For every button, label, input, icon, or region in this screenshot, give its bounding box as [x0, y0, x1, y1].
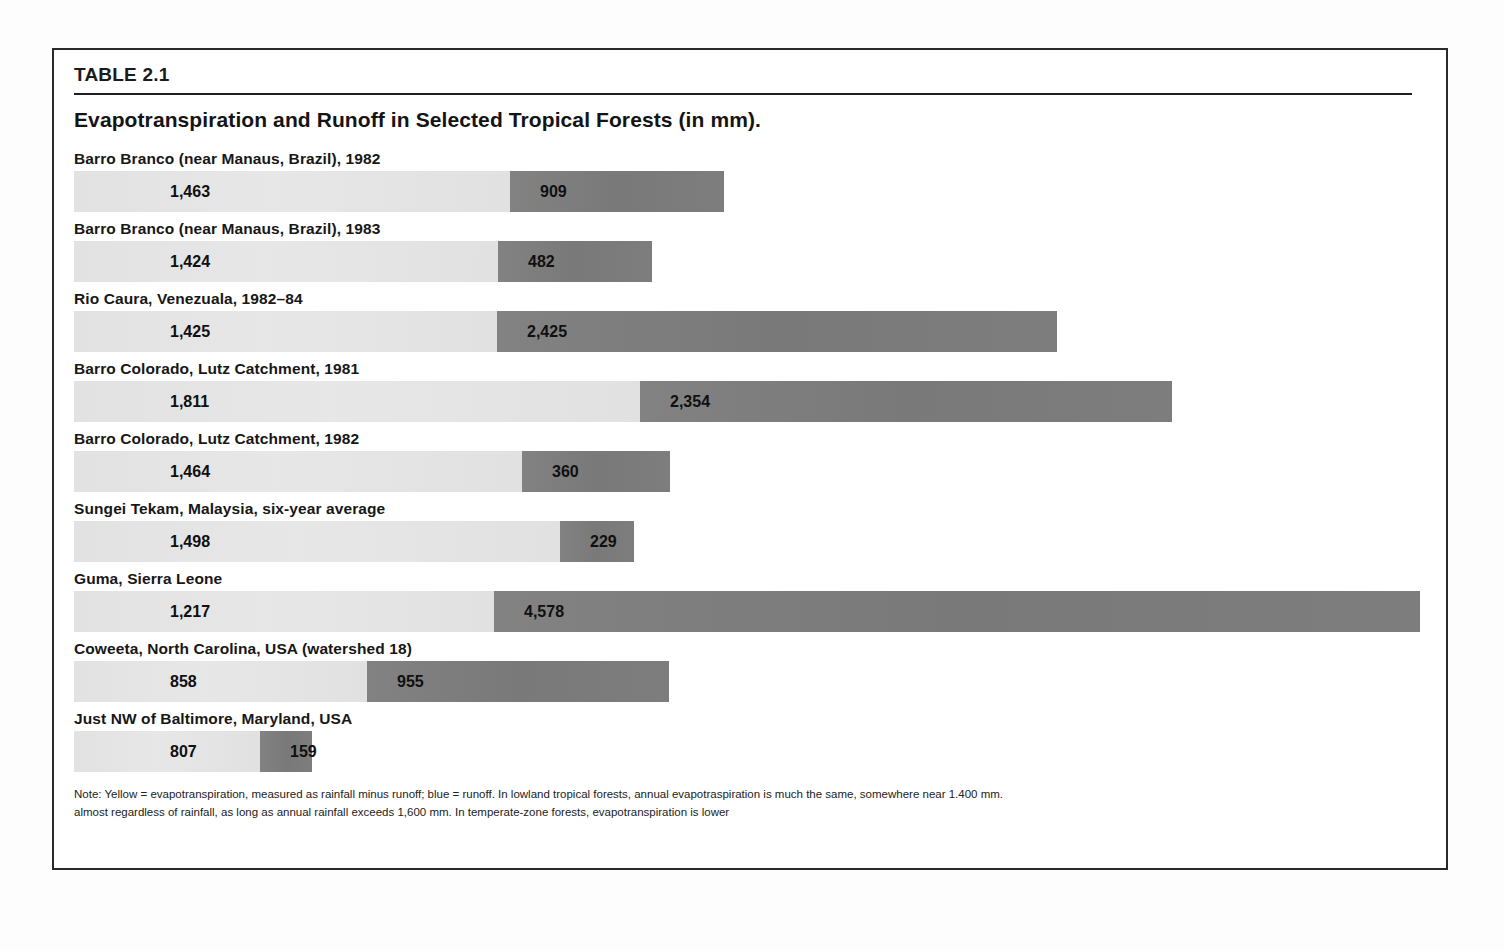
- bar-rows-container: Barro Branco (near Manaus, Brazil), 1982…: [74, 150, 1426, 772]
- header-rule: [74, 93, 1412, 95]
- bar-row: Coweeta, North Carolina, USA (watershed …: [74, 640, 1426, 702]
- note-line-2: almost regardless of rainfall, as long a…: [74, 804, 1194, 822]
- bar-value-evapotranspiration: 1,425: [170, 323, 210, 341]
- bar-row-label: Coweeta, North Carolina, USA (watershed …: [74, 640, 1426, 658]
- bar-row: Barro Branco (near Manaus, Brazil), 1982…: [74, 150, 1426, 212]
- bar-row: Barro Branco (near Manaus, Brazil), 1983…: [74, 220, 1426, 282]
- bar-row: Rio Caura, Venezuala, 1982–841,4252,425: [74, 290, 1426, 352]
- stacked-bar: 1,8112,354: [74, 381, 1426, 422]
- bar-segment-evapotranspiration: 858: [74, 661, 367, 702]
- bar-row: Guma, Sierra Leone1,2174,578: [74, 570, 1426, 632]
- bar-row-label: Sungei Tekam, Malaysia, six-year average: [74, 500, 1426, 518]
- bar-value-evapotranspiration: 1,424: [170, 253, 210, 271]
- stacked-bar: 1,4252,425: [74, 311, 1426, 352]
- bar-row-label: Barro Branco (near Manaus, Brazil), 1982: [74, 150, 1426, 168]
- bar-value-runoff: 2,354: [670, 393, 710, 411]
- table-inner: TABLE 2.1 Evapotranspiration and Runoff …: [74, 64, 1426, 822]
- bar-segment-evapotranspiration: 1,463: [74, 171, 510, 212]
- bar-row: Barro Colorado, Lutz Catchment, 19811,81…: [74, 360, 1426, 422]
- bar-value-evapotranspiration: 1,463: [170, 183, 210, 201]
- bar-segment-evapotranspiration: 1,498: [74, 521, 560, 562]
- bar-segment-evapotranspiration: 1,811: [74, 381, 640, 422]
- table-frame: TABLE 2.1 Evapotranspiration and Runoff …: [52, 48, 1448, 870]
- bar-segment-evapotranspiration: 1,217: [74, 591, 494, 632]
- bar-value-runoff: 955: [397, 673, 424, 691]
- bar-segment-evapotranspiration: 1,424: [74, 241, 498, 282]
- bar-segment-runoff: 2,354: [640, 381, 1172, 422]
- stacked-bar: 858955: [74, 661, 1426, 702]
- bar-segment-runoff: 909: [510, 171, 724, 212]
- bar-value-evapotranspiration: 1,217: [170, 603, 210, 621]
- bar-segment-runoff: 955: [367, 661, 669, 702]
- bar-value-runoff: 4,578: [524, 603, 564, 621]
- bar-row-label: Rio Caura, Venezuala, 1982–84: [74, 290, 1426, 308]
- bar-value-evapotranspiration: 858: [170, 673, 197, 691]
- bar-segment-runoff: 159: [260, 731, 312, 772]
- bar-value-evapotranspiration: 1,811: [170, 393, 209, 411]
- bar-segment-runoff: 360: [522, 451, 670, 492]
- bar-row: Barro Colorado, Lutz Catchment, 19821,46…: [74, 430, 1426, 492]
- bar-row: Sungei Tekam, Malaysia, six-year average…: [74, 500, 1426, 562]
- table-note: Note: Yellow = evapotranspiration, measu…: [74, 786, 1194, 822]
- bar-segment-runoff: 229: [560, 521, 634, 562]
- table-id-label: TABLE 2.1: [74, 64, 1426, 93]
- bar-value-evapotranspiration: 1,464: [170, 463, 210, 481]
- bar-segment-runoff: 482: [498, 241, 652, 282]
- bar-value-runoff: 360: [552, 463, 579, 481]
- bar-row-label: Barro Branco (near Manaus, Brazil), 1983: [74, 220, 1426, 238]
- bar-value-runoff: 909: [540, 183, 567, 201]
- bar-segment-evapotranspiration: 1,464: [74, 451, 522, 492]
- bar-row-label: Barro Colorado, Lutz Catchment, 1981: [74, 360, 1426, 378]
- bar-row-label: Guma, Sierra Leone: [74, 570, 1426, 588]
- bar-value-runoff: 229: [590, 533, 617, 551]
- bar-segment-runoff: 2,425: [497, 311, 1057, 352]
- bar-segment-evapotranspiration: 807: [74, 731, 260, 772]
- bar-value-evapotranspiration: 807: [170, 743, 197, 761]
- bar-value-runoff: 159: [290, 743, 317, 761]
- page-canvas: TABLE 2.1 Evapotranspiration and Runoff …: [0, 0, 1504, 951]
- bar-segment-evapotranspiration: 1,425: [74, 311, 497, 352]
- stacked-bar: 1,2174,578: [74, 591, 1426, 632]
- table-title: Evapotranspiration and Runoff in Selecte…: [74, 108, 1426, 132]
- bar-row-label: Just NW of Baltimore, Maryland, USA: [74, 710, 1426, 728]
- bar-row: Just NW of Baltimore, Maryland, USA80715…: [74, 710, 1426, 772]
- bar-value-runoff: 2,425: [527, 323, 567, 341]
- bar-row-label: Barro Colorado, Lutz Catchment, 1982: [74, 430, 1426, 448]
- bar-value-evapotranspiration: 1,498: [170, 533, 210, 551]
- stacked-bar: 1,498229: [74, 521, 1426, 562]
- stacked-bar: 1,464360: [74, 451, 1426, 492]
- bar-value-runoff: 482: [528, 253, 555, 271]
- stacked-bar: 1,463909: [74, 171, 1426, 212]
- bar-segment-runoff: 4,578: [494, 591, 1420, 632]
- stacked-bar: 1,424482: [74, 241, 1426, 282]
- stacked-bar: 807159: [74, 731, 1426, 772]
- note-line-1: Note: Yellow = evapotranspiration, measu…: [74, 786, 1194, 804]
